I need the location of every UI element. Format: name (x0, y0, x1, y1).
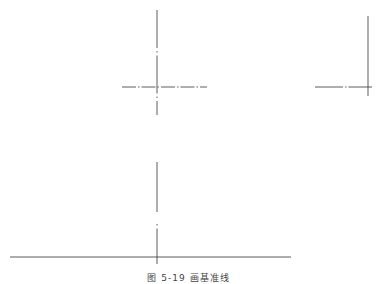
figure-caption: 图 5-19 画基准线 (0, 272, 377, 284)
side-view-baselines (315, 16, 372, 96)
front-view-baselines (122, 10, 207, 115)
top-view-baselines (10, 162, 291, 264)
